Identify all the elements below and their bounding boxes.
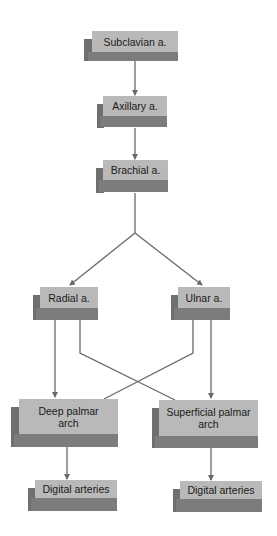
node-label: Deep palmar arch	[19, 399, 118, 434]
node-superficial-palmar-arch: Superficial palmar arch	[152, 400, 258, 448]
node-axillary: Axillary a.	[97, 96, 167, 128]
edge-brachial-radial	[70, 233, 135, 285]
node-radial: Radial a.	[33, 287, 98, 320]
node-label: Subclavian a.	[92, 31, 178, 52]
edge-radial-superficial	[80, 320, 175, 400]
node-label: Brachial a.	[103, 160, 168, 180]
connector-lines	[0, 0, 277, 536]
node-subclavian: Subclavian a.	[84, 31, 178, 61]
node-digital-arteries-left: Digital arteries	[28, 480, 117, 511]
node-ulnar: Ulnar a.	[171, 287, 230, 320]
node-label: Radial a.	[40, 287, 98, 308]
node-label: Superficial palmar arch	[159, 400, 258, 436]
node-brachial: Brachial a.	[96, 160, 168, 193]
node-label: Axillary a.	[103, 96, 167, 116]
edge-brachial-ulnar	[135, 233, 202, 285]
node-label: Digital arteries	[180, 481, 262, 499]
node-deep-palmar-arch: Deep palmar arch	[11, 399, 118, 447]
node-digital-arteries-right: Digital arteries	[173, 481, 262, 512]
node-label: Ulnar a.	[178, 287, 230, 308]
artery-flowchart: Subclavian a. Axillary a. Brachial a. Ra…	[0, 0, 277, 536]
node-label: Digital arteries	[35, 480, 117, 498]
